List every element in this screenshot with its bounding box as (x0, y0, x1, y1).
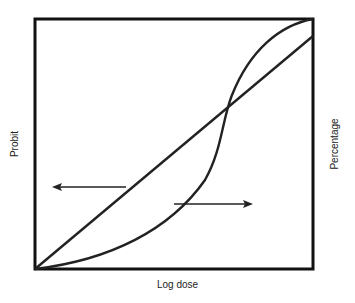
arrow-left-icon (52, 183, 126, 191)
percentage-curve (35, 19, 313, 269)
probit-line (35, 36, 313, 269)
plot-frame (35, 19, 313, 269)
arrow-right-icon (174, 200, 253, 208)
probit-diagram (0, 0, 355, 303)
right-axis-label: Percentage (329, 118, 340, 169)
x-axis-label: Log dose (0, 279, 355, 290)
left-axis-label: Probit (9, 131, 20, 157)
